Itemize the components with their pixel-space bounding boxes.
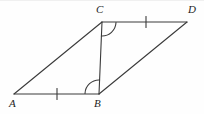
- vertex-label-D: D: [188, 4, 196, 15]
- vertex-label-B: B: [94, 98, 101, 109]
- vertex-label-A: A: [9, 98, 16, 109]
- segment-CB-diagonal: [99, 22, 102, 94]
- segment-BD: [99, 22, 187, 94]
- geometry-figure: A B C D: [0, 0, 204, 114]
- segments-group: [14, 22, 187, 94]
- angle-arc-at-B: [85, 80, 100, 93]
- segment-AC: [14, 22, 102, 94]
- angle-arc-at-C: [101, 23, 116, 36]
- vertex-label-C: C: [96, 4, 103, 15]
- geometry-canvas: [0, 0, 204, 114]
